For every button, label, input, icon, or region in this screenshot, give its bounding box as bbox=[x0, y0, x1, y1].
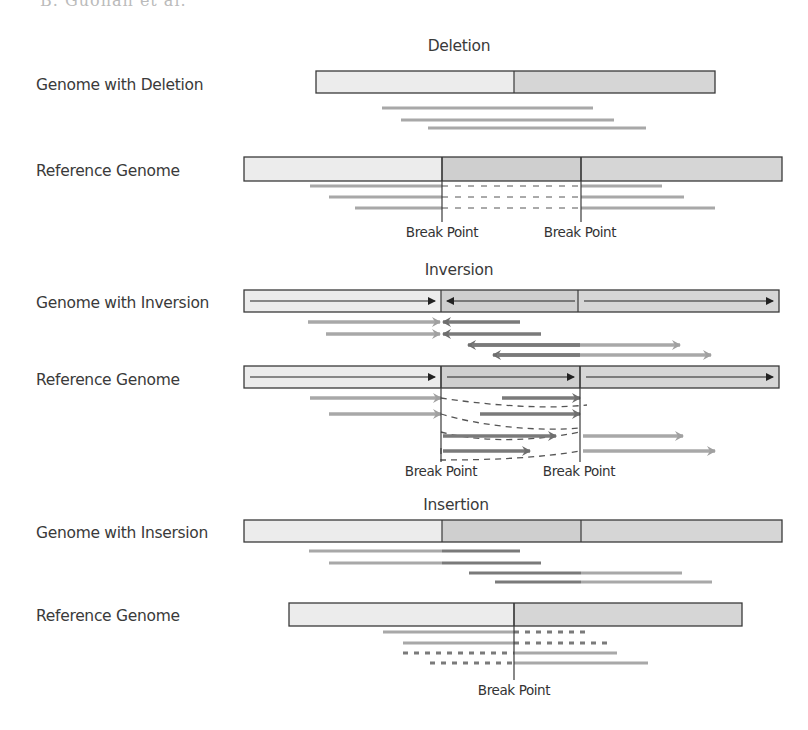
deletion-reference-bar-segment bbox=[442, 157, 581, 181]
insertion-reference-bar-segment bbox=[514, 603, 742, 626]
genome-with-insertion-bar-segment bbox=[442, 520, 581, 542]
insertion-title: Insertion bbox=[423, 496, 488, 514]
genome-with-insertion-bar-segment bbox=[244, 520, 442, 542]
deletion-break-point-label-2: Break Point bbox=[544, 224, 616, 240]
deletion-title: Deletion bbox=[428, 37, 491, 55]
genome-with-deletion-bar-segment bbox=[514, 71, 715, 93]
insertion-reference-bar-segment bbox=[289, 603, 514, 626]
diagram-layer bbox=[244, 71, 782, 680]
inversion-break-point-label-2: Break Point bbox=[543, 463, 615, 479]
genome-with-insertion-bar-segment bbox=[581, 520, 782, 542]
deletion-reference-genome-label: Reference Genome bbox=[36, 162, 180, 180]
deletion-break-point-label-1: Break Point bbox=[406, 224, 478, 240]
paired-read-link bbox=[441, 414, 580, 429]
genome-with-deletion-label: Genome with Deletion bbox=[36, 76, 203, 94]
insertion-reference-genome-label: Reference Genome bbox=[36, 607, 180, 625]
genome-with-inversion-label: Genome with Inversion bbox=[36, 294, 209, 312]
genome-with-deletion-bar-segment bbox=[316, 71, 514, 93]
inversion-title: Inversion bbox=[425, 261, 493, 279]
inversion-reference-genome-label: Reference Genome bbox=[36, 371, 180, 389]
genome-with-insertion-label: Genome with Insersion bbox=[36, 524, 208, 542]
deletion-reference-bar-segment bbox=[581, 157, 782, 181]
insertion-break-point-label: Break Point bbox=[478, 682, 550, 698]
deletion-reference-bar-segment bbox=[244, 157, 442, 181]
inversion-break-point-label-1: Break Point bbox=[405, 463, 477, 479]
